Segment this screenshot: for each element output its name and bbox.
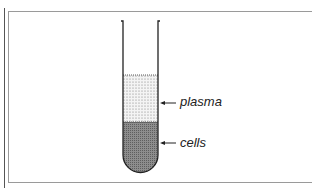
- test-tube-diagram: [0, 0, 312, 188]
- cells-label: cells: [180, 136, 206, 149]
- plasma-layer: [120, 75, 162, 122]
- plasma-arrow-icon: [160, 101, 176, 105]
- plasma-label: plasma: [180, 95, 222, 108]
- cells-arrow-icon: [160, 141, 176, 145]
